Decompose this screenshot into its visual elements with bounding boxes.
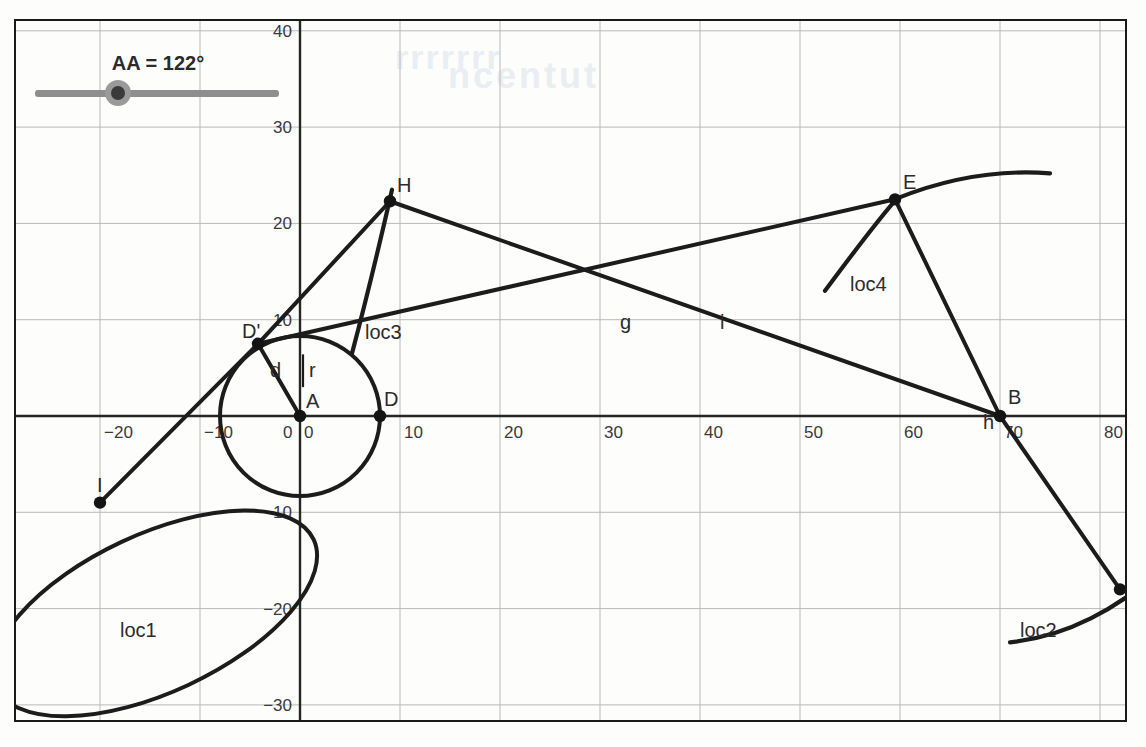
angle-slider-knob[interactable] bbox=[105, 80, 131, 106]
x-axis-tick-label: −20 bbox=[104, 423, 133, 442]
segment-B-J[interactable] bbox=[1000, 416, 1120, 589]
point-H[interactable] bbox=[384, 195, 396, 207]
points: ADD'HEBIJ bbox=[94, 171, 1125, 595]
axes bbox=[16, 21, 1125, 720]
x-axis-tick-label: 0 bbox=[304, 423, 313, 442]
point-label-D': D' bbox=[242, 320, 260, 342]
loci-curves bbox=[16, 172, 1125, 720]
point-label-D: D bbox=[384, 388, 398, 410]
locus-label-loc4: loc4 bbox=[850, 273, 887, 295]
x-axis-tick-label: 20 bbox=[504, 423, 523, 442]
segment-label-d: d bbox=[270, 359, 281, 381]
x-axis-tick-label: −10 bbox=[204, 423, 233, 442]
point-D[interactable] bbox=[374, 410, 386, 422]
locus-curve-loc4-right bbox=[897, 172, 1050, 198]
angle-slider-track[interactable] bbox=[35, 90, 279, 97]
origin-tick-label: 0 bbox=[283, 423, 292, 442]
x-axis-tick-label: 30 bbox=[604, 423, 623, 442]
segment-label-g: g bbox=[620, 311, 631, 333]
x-axis-tick-label: 50 bbox=[804, 423, 823, 442]
locus-label-loc2: loc2 bbox=[1020, 619, 1057, 641]
segment-H-B[interactable] bbox=[390, 201, 1000, 416]
locus-labels: loc1loc2loc3loc4 bbox=[120, 273, 1057, 642]
segment-label-h: h bbox=[983, 411, 994, 433]
y-axis-tick-label: 30 bbox=[273, 118, 292, 137]
point-label-A: A bbox=[306, 390, 320, 412]
x-axis-tick-label: 40 bbox=[704, 423, 723, 442]
tick-labels: −20−100102030405060708040302010−10−20−30… bbox=[104, 22, 1123, 715]
point-label-I: I bbox=[97, 474, 103, 496]
segment-D'-E[interactable] bbox=[258, 199, 895, 343]
segments bbox=[100, 199, 1120, 589]
segment-label-i: i bbox=[720, 311, 724, 333]
x-axis-tick-label: 60 bbox=[904, 423, 923, 442]
graph-canvas-panel[interactable]: −20−100102030405060708040302010−10−20−30… bbox=[14, 19, 1127, 722]
angle-slider-widget[interactable]: AA = 122° bbox=[28, 52, 288, 110]
point-B[interactable] bbox=[994, 410, 1006, 422]
locus-ellipse-loc1 bbox=[16, 468, 347, 720]
locus-label-loc3: loc3 bbox=[365, 321, 402, 343]
point-E[interactable] bbox=[889, 193, 901, 205]
y-axis-tick-label: 20 bbox=[273, 214, 292, 233]
angle-slider-label: AA = 122° bbox=[28, 52, 288, 75]
y-axis-tick-label: 40 bbox=[273, 22, 292, 41]
point-label-B: B bbox=[1008, 386, 1021, 408]
segment-label-r: r bbox=[309, 359, 316, 381]
point-A[interactable] bbox=[294, 410, 306, 422]
x-axis-tick-label: 10 bbox=[404, 423, 423, 442]
locus-label-loc1: loc1 bbox=[120, 619, 157, 641]
geometry-graph[interactable]: −20−100102030405060708040302010−10−20−30… bbox=[16, 21, 1125, 720]
point-label-H: H bbox=[397, 174, 411, 196]
grid-lines bbox=[16, 21, 1125, 720]
point-label-E: E bbox=[903, 171, 916, 193]
x-axis-tick-label: 80 bbox=[1104, 423, 1123, 442]
point-I[interactable] bbox=[94, 496, 106, 508]
geometry-app: rrrrrrr ncentut −20−10010203040506070804… bbox=[0, 0, 1146, 747]
y-axis-tick-label: −30 bbox=[263, 696, 292, 715]
